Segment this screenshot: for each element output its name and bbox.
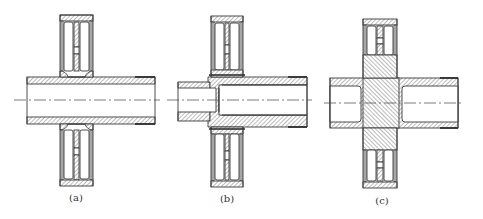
gear-lower (209, 127, 245, 187)
shaft-wall-top (27, 77, 155, 84)
figure-canvas: (a) (b) (c) (0, 0, 483, 219)
gear-shaft-diagram (0, 0, 483, 219)
gear-upper (209, 16, 245, 77)
gear-lower (60, 124, 93, 186)
stub-wall-bottom (178, 112, 210, 121)
gear-upper (60, 15, 93, 77)
left-bore (330, 86, 361, 122)
panel-c (324, 19, 463, 188)
panel-b (167, 16, 312, 187)
gear-upper (363, 19, 397, 78)
shaft-wall-bottom (27, 117, 155, 124)
panel-label-c: (c) (375, 195, 388, 206)
panel-label-a: (a) (69, 192, 83, 203)
right-bore (402, 86, 458, 122)
stub-wall-top (178, 82, 210, 88)
gear-lower (363, 128, 397, 188)
panel-a (14, 15, 160, 186)
panel-label-b: (b) (220, 193, 234, 204)
